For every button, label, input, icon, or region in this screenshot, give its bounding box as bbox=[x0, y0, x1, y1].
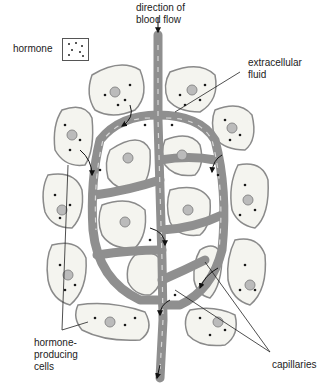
extracellular-fluid-label: extracellular fluid bbox=[248, 57, 302, 81]
capillaries-label: capillaries bbox=[272, 359, 316, 371]
hormone-legend-label: hormone bbox=[13, 43, 52, 55]
hormone-producing-cells-label: hormone- producing cells bbox=[34, 337, 78, 373]
hormone-legend-box bbox=[62, 38, 89, 61]
direction-of-blood-flow-label: direction of blood flow bbox=[136, 2, 185, 26]
